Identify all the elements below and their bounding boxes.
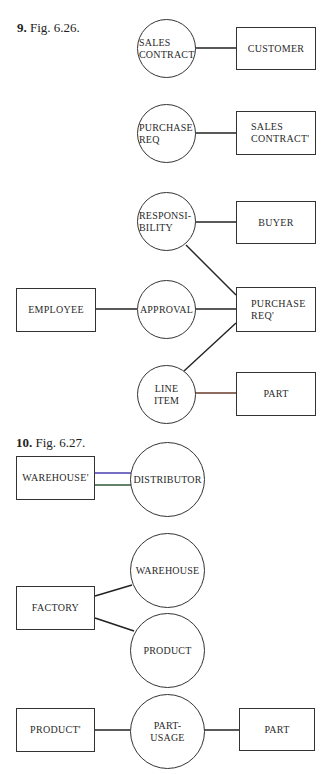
relationship-label: PURCHASE REQ xyxy=(139,122,193,146)
relationship-responsibility: RESPONSI- BILITY xyxy=(137,192,196,251)
relationship-product: PRODUCT xyxy=(130,613,205,688)
relationship-warehouse: WAREHOUSE xyxy=(130,533,205,608)
relationship-label: RESPONSI- BILITY xyxy=(139,210,191,234)
relationship-label: PART- USAGE xyxy=(150,720,184,744)
entity-label: WAREHOUSE' xyxy=(22,472,88,484)
entity-label: BUYER xyxy=(258,217,293,229)
figure-caption: Fig. 6.26. xyxy=(30,20,80,35)
figure-number: 10. xyxy=(16,435,32,450)
entity-buyer: BUYER xyxy=(236,201,316,244)
entity-label: PURCHASE REQ' xyxy=(251,298,306,322)
entity-employee: EMPLOYEE xyxy=(16,288,96,332)
entity-label: FACTORY xyxy=(32,602,79,614)
relationship-approval: APPROVAL xyxy=(137,280,196,339)
relationship-label: LINE ITEM xyxy=(154,383,179,407)
figure-heading-10: 10. Fig. 6.27. xyxy=(16,435,85,451)
link-factory-warehouse xyxy=(95,585,132,596)
relationship-label: PRODUCT xyxy=(143,645,191,657)
relationship-line-item: LINE ITEM xyxy=(137,365,196,424)
relationship-label: DISTRIBUTOR xyxy=(133,474,201,486)
relationship-label: SALES CONTRACT xyxy=(139,37,195,61)
entity-label: SALES CONTRACT' xyxy=(251,121,309,145)
entity-part: PART xyxy=(236,372,316,416)
relationship-part-usage: PART- USAGE xyxy=(130,694,205,769)
figure-number: 9. xyxy=(17,20,27,35)
entity-customer: CUSTOMER xyxy=(236,27,316,70)
relationship-distributor: DISTRIBUTOR xyxy=(130,442,205,517)
entity-label: PART xyxy=(264,724,289,736)
relationship-label: APPROVAL xyxy=(140,304,193,316)
figure-caption: Fig. 6.27. xyxy=(36,435,86,450)
entity-label: EMPLOYEE xyxy=(28,304,84,316)
entity-label: PRODUCT' xyxy=(30,724,81,736)
relationship-label: WAREHOUSE xyxy=(136,565,199,577)
entity-label: CUSTOMER xyxy=(248,43,305,55)
entity-sales-contract-prime: SALES CONTRACT' xyxy=(236,111,316,155)
link-factory-product xyxy=(95,618,134,631)
link-purchase-req-line-item xyxy=(184,323,236,371)
relationship-purchase-req: PURCHASE REQ xyxy=(137,104,196,163)
entity-purchase-req-prime: PURCHASE REQ' xyxy=(236,287,316,332)
entity-label: PART xyxy=(263,388,288,400)
figure-heading-9: 9. Fig. 6.26. xyxy=(17,20,80,36)
entity-factory: FACTORY xyxy=(16,586,95,630)
entity-warehouse-prime: WAREHOUSE' xyxy=(16,456,95,500)
entity-part-2: PART xyxy=(239,708,315,751)
entity-product-prime: PRODUCT' xyxy=(16,708,95,752)
link-responsibility-purchase-req xyxy=(186,245,236,295)
relationship-sales-contract: SALES CONTRACT xyxy=(137,19,196,78)
